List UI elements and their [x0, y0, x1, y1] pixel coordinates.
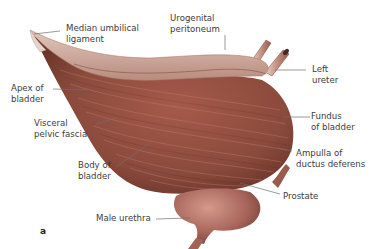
label-left-ureter: Left ureter	[312, 64, 338, 86]
label-urogenital-peritoneum: Urogenital peritoneum	[170, 13, 220, 35]
label-visceral-pelvic-fascia: Visceral pelvic fascia	[34, 118, 87, 140]
label-body-of-bladder: Body of bladder	[78, 160, 111, 182]
label-fundus-of-bladder: Fundus of bladder	[311, 111, 355, 133]
urethra	[188, 238, 204, 249]
prostate-shape	[174, 189, 260, 244]
label-ampulla-of-ductus-deferens: Ampulla of ductus deferens	[296, 148, 365, 170]
label-median-umbilical-ligament: Median umbilical ligament	[66, 23, 139, 45]
label-apex-of-bladder: Apex of bladder	[11, 83, 44, 105]
label-male-urethra: Male urethra	[96, 213, 151, 224]
label-prostate: Prostate	[283, 191, 318, 202]
anatomy-figure-bladder: Median umbilical ligament Urogenital per…	[0, 0, 377, 249]
panel-letter: a	[40, 226, 46, 236]
